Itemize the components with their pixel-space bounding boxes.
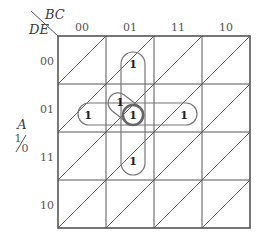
- col-header-11: 11: [171, 21, 185, 34]
- row-header-11: 11: [40, 151, 54, 164]
- group-loops: [78, 52, 197, 175]
- cell-01-00-a0: 1: [84, 109, 92, 122]
- col-header-01: 01: [123, 21, 137, 34]
- map-var-lower: 0: [22, 142, 29, 155]
- cell-11-01-a0: 1: [129, 155, 137, 168]
- col-header-00: 00: [75, 21, 89, 34]
- row-header-10: 10: [40, 199, 54, 212]
- cell-01-11-a0: 1: [180, 109, 188, 122]
- cell-01-01-a0: 1: [129, 109, 137, 122]
- row-var-label: DE: [28, 22, 49, 37]
- col-var-label: BC: [44, 7, 65, 22]
- cell-01-01-a1: 1: [116, 96, 124, 109]
- row-header-01: 01: [40, 103, 54, 116]
- karnaugh-map: BC DE 00 01 11 10 00 01 11 10 A 1 0 1 1 …: [0, 0, 262, 240]
- cell-00-01-a1: 1: [129, 58, 137, 71]
- map-var-label: A: [16, 117, 26, 132]
- row-header-00: 00: [40, 55, 54, 68]
- map-var-upper: 1: [15, 132, 22, 145]
- col-header-10: 10: [219, 21, 233, 34]
